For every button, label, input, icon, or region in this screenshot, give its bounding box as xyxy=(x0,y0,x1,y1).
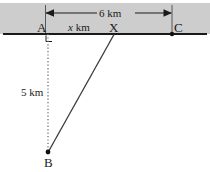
geometry-diagram: 6 km A x km X C 5 km B xyxy=(0,0,210,172)
point-label-b: B xyxy=(44,156,53,169)
dimension-label-x-km: x km xyxy=(68,22,90,33)
point-label-x: X xyxy=(109,21,118,34)
segment-xb xyxy=(49,35,115,152)
right-angle-icon xyxy=(46,36,52,42)
point-label-c: C xyxy=(174,21,183,34)
dimension-label-6km: 6 km xyxy=(99,8,121,19)
point-marker-b xyxy=(46,150,51,155)
dimension-label-5km: 5 km xyxy=(21,87,43,98)
dimension-label-x-unit: km xyxy=(73,21,90,33)
point-label-a: A xyxy=(37,21,46,34)
